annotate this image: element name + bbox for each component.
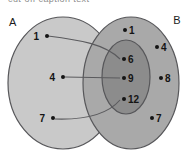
element-b-dot-4 [155,45,159,49]
element-inner-label-12: 12 [128,94,140,105]
venn-diagram-figure: cut-off caption text 147 1487 6912 A B [0,0,189,152]
element-inner-label-6: 6 [128,54,134,65]
element-a-label-4: 4 [49,72,55,83]
set-b-label: B [173,14,180,26]
element-inner-dot-12 [122,97,126,101]
element-a-dot-1 [45,34,49,38]
element-a-label-7: 7 [39,113,45,124]
element-a-dot-7 [51,116,55,120]
element-a-label-1: 1 [33,31,39,42]
element-b-label-7: 7 [156,113,162,124]
element-b-label-4: 4 [161,42,167,53]
venn-canvas: 147 1487 6912 A B [0,0,189,152]
element-inner-dot-9 [122,76,126,80]
element-b-dot-7 [150,116,154,120]
element-b-label-8: 8 [165,73,171,84]
element-inner-label-9: 9 [128,73,134,84]
element-inner-dot-6 [122,57,126,61]
element-b-dot-8 [159,76,163,80]
element-b-dot-1 [123,28,127,32]
element-a-dot-4 [61,75,65,79]
element-b-label-1: 1 [129,25,135,36]
set-a-label: A [9,16,17,28]
